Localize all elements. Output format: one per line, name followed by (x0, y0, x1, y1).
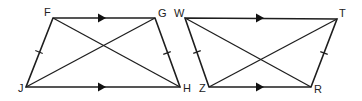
parallel-arrow-icon (256, 83, 264, 92)
diagonal-GJ (26, 18, 155, 87)
trapezoid-diagram: FGHJWTRZ (0, 0, 362, 101)
trapezoid-outline (26, 18, 180, 87)
parallel-arrow-icon (256, 14, 264, 23)
vertex-label-G: G (158, 7, 167, 19)
vertex-label-T: T (339, 7, 346, 19)
vertex-label-J: J (18, 82, 24, 94)
parallel-arrow-icon (98, 83, 106, 92)
diagonal-TZ (209, 19, 337, 87)
trapezoid-FGHJ: FGHJ (18, 6, 191, 94)
vertex-label-F: F (44, 6, 51, 18)
vertex-label-Z: Z (199, 82, 206, 94)
vertex-label-H: H (183, 82, 191, 94)
vertex-label-W: W (174, 7, 185, 19)
vertex-label-R: R (314, 83, 322, 95)
trapezoid-outline (185, 18, 337, 87)
diagonal-FH (53, 18, 180, 87)
diagonal-WR (185, 18, 311, 87)
parallel-arrow-icon (98, 14, 106, 23)
trapezoid-WTRZ: WTRZ (174, 7, 346, 95)
